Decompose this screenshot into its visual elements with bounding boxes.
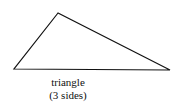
caption-name: triangle xyxy=(38,76,98,88)
caption-sides: (3 sides) xyxy=(38,89,98,101)
